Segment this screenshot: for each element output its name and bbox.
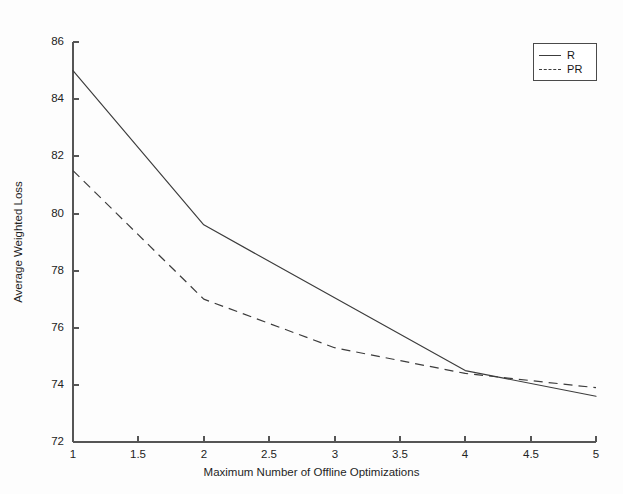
x-axis-title: Maximum Number of Offline Optimizations bbox=[0, 466, 623, 478]
y-tick-label-86: 86 bbox=[42, 36, 64, 48]
legend-line-solid-icon bbox=[539, 50, 561, 60]
y-tick-label-78: 78 bbox=[42, 265, 64, 277]
figure-canvas: 86 84 82 80 78 76 74 72 1 1.5 2 2.5 3 3.… bbox=[0, 0, 623, 494]
x-tick-label-5: 5 bbox=[593, 449, 599, 461]
y-tick-label-76: 76 bbox=[42, 322, 64, 334]
x-tick-label-2: 2 bbox=[201, 449, 207, 461]
y-axis-ticks bbox=[73, 42, 79, 442]
legend-entry-r: R bbox=[539, 48, 591, 62]
x-axis-ticks bbox=[73, 436, 596, 442]
x-tick-label-1: 1 bbox=[70, 449, 76, 461]
series-line-pr bbox=[73, 171, 596, 388]
legend-label-pr: PR bbox=[567, 64, 583, 75]
x-tick-label-3: 3 bbox=[332, 449, 338, 461]
y-tick-label-80: 80 bbox=[42, 208, 64, 220]
x-tick-label-3-5: 3.5 bbox=[392, 449, 408, 461]
legend-label-r: R bbox=[567, 50, 575, 61]
y-tick-label-74: 74 bbox=[42, 379, 64, 391]
legend-box: R PR bbox=[533, 43, 597, 81]
x-tick-label-4: 4 bbox=[462, 449, 468, 461]
legend-entry-pr: PR bbox=[539, 62, 591, 76]
y-tick-label-82: 82 bbox=[42, 150, 64, 162]
legend-line-dashed-icon bbox=[539, 64, 561, 74]
y-tick-label-72: 72 bbox=[42, 436, 64, 448]
x-tick-label-4-5: 4.5 bbox=[523, 449, 539, 461]
y-tick-label-84: 84 bbox=[42, 93, 64, 105]
plot-area bbox=[0, 0, 623, 494]
x-tick-label-2-5: 2.5 bbox=[261, 449, 277, 461]
y-axis-title: Average Weighted Loss bbox=[12, 181, 24, 303]
x-tick-label-1-5: 1.5 bbox=[130, 449, 146, 461]
